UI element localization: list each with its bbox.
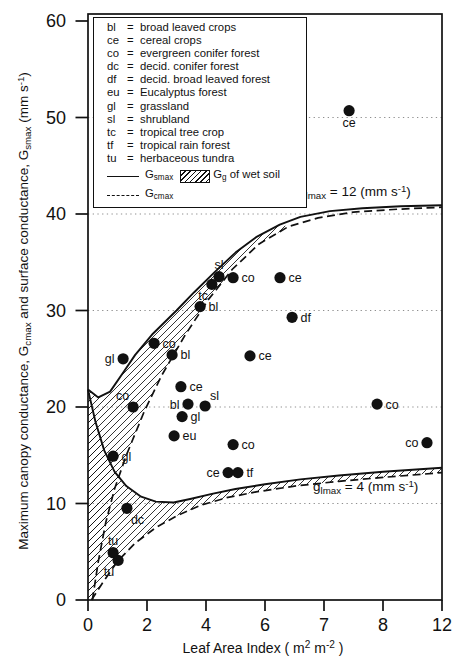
annotation-glmax12: glmax = 12 (mm s-1) <box>298 183 411 201</box>
point-label: ce <box>289 271 302 285</box>
legend-equals: = <box>127 73 140 86</box>
legend-abbr: gl <box>107 100 127 113</box>
point-label: ce <box>189 380 202 394</box>
legend-abbr: df <box>107 73 127 86</box>
point-label: gl <box>122 450 132 464</box>
y-tick-label: 20 <box>46 397 66 417</box>
data-point-ce <box>274 272 285 283</box>
data-point-co <box>228 439 239 450</box>
data-point-ce <box>223 467 234 478</box>
legend-equals: = <box>127 152 140 165</box>
point-label: co <box>242 438 255 452</box>
y-tick-label: 10 <box>46 494 66 514</box>
data-point-gl <box>118 353 129 364</box>
data-point-co <box>372 399 383 410</box>
legend-desc: shrubland <box>140 113 304 126</box>
legend-item: df=decid. broad leaved forest <box>107 73 304 86</box>
x-tick-label: 0 <box>83 615 93 635</box>
annotation-glmax4: glmax = 4 (mm s-1) <box>313 478 418 496</box>
point-label: dc <box>131 513 144 527</box>
wet-soil-hatch-regions <box>88 225 442 600</box>
x-tick-label: 2 <box>142 615 152 635</box>
legend-item: tc=tropical tree crop <box>107 126 304 139</box>
gsmax-label: Gsmax <box>145 168 173 184</box>
point-label: gl <box>191 410 201 424</box>
data-point-co <box>421 437 432 448</box>
data-point-bl <box>195 301 206 312</box>
legend-item: dc=decid. conifer forest <box>107 60 304 73</box>
legend-line-gsmax: Gsmax Gg of wet soil <box>107 168 304 184</box>
legend-item: co=evergreen conifer forest <box>107 47 304 60</box>
point-label: gl <box>105 352 115 366</box>
point-label: co <box>242 271 255 285</box>
legend-abbr: bl <box>107 21 127 34</box>
legend-equals: = <box>127 86 140 99</box>
legend-item: tf=tropical rain forest <box>107 139 304 152</box>
data-point-ce <box>344 105 355 116</box>
legend-item: bl=broad leaved crops <box>107 21 304 34</box>
gcmax-label: Gcmax <box>145 187 173 203</box>
y-tick-label: 60 <box>46 11 66 31</box>
data-point-ce <box>244 350 255 361</box>
y-tick-label: 30 <box>46 301 66 321</box>
point-label: tc <box>198 289 208 303</box>
data-point-ce <box>175 381 186 392</box>
legend-desc: decid. broad leaved forest <box>140 73 304 86</box>
point-label: bl <box>209 300 219 314</box>
legend-equals: = <box>127 34 140 47</box>
point-label: ce <box>259 349 272 363</box>
data-point-eu <box>169 430 180 441</box>
legend-abbr: tf <box>107 139 127 152</box>
legend-item: ce=cereal crops <box>107 34 304 47</box>
legend-desc: tropical rain forest <box>140 139 304 152</box>
legend-abbr: tu <box>107 152 127 165</box>
solid-line-sample <box>107 176 139 177</box>
legend-abbr: sl <box>107 113 127 126</box>
dashed-line-sample <box>107 195 139 196</box>
data-point-co <box>128 401 139 412</box>
legend-equals: = <box>127 139 140 152</box>
data-point-tf <box>232 467 243 478</box>
legend-item: sl=shrubland <box>107 113 304 126</box>
point-label: bl <box>181 348 191 362</box>
y-tick-label: 50 <box>46 108 66 128</box>
point-label: tf <box>246 466 253 480</box>
point-label: sl <box>214 258 223 272</box>
legend-equals: = <box>127 100 140 113</box>
x-tick-label: 12 <box>432 615 452 635</box>
point-label: tu <box>104 565 114 579</box>
legend-abbr: ce <box>107 34 127 47</box>
point-label: ce <box>342 116 355 130</box>
legend-equals: = <box>127 47 140 60</box>
legend-equals: = <box>127 126 140 139</box>
data-point-gl <box>108 451 119 462</box>
legend-items: bl=broad leaved cropsce=cereal cropsco=e… <box>107 21 304 165</box>
figure: 010203040506002467812cesltccocebldfcoglb… <box>0 0 455 664</box>
wet-soil-hatch-swatch <box>180 170 210 183</box>
data-point-tu <box>113 555 124 566</box>
legend-abbr: co <box>107 47 127 60</box>
point-label: ce <box>206 466 219 480</box>
point-label: co <box>386 398 399 412</box>
point-label: eu <box>183 429 197 443</box>
legend-desc: herbaceous tundra <box>140 152 304 165</box>
point-label: co <box>163 337 176 351</box>
data-point-co <box>228 272 239 283</box>
x-tick-label: 6 <box>260 615 270 635</box>
gg-label: Gg of wet soil <box>213 168 280 184</box>
x-axis-title: Leaf Area Index ( m2 m-2 ) <box>183 639 344 656</box>
legend-line-gcmax: Gcmax <box>107 187 304 203</box>
data-point-co <box>149 338 160 349</box>
y-axis-title: Maximum canopy conductance, Gcmax and su… <box>15 72 33 550</box>
point-label: tu <box>108 534 118 548</box>
legend-equals: = <box>127 113 140 126</box>
legend-item: tu=herbaceous tundra <box>107 152 304 165</box>
legend-desc: evergreen conifer forest <box>140 47 304 60</box>
legend-desc: broad leaved crops <box>140 21 304 34</box>
chart-legend: bl=broad leaved cropsce=cereal cropsco=e… <box>93 17 307 208</box>
point-label: df <box>301 311 312 325</box>
point-label: co <box>405 436 418 450</box>
legend-abbr: eu <box>107 86 127 99</box>
legend-desc: Eucalyptus forest <box>140 86 304 99</box>
x-tick-label: 4 <box>201 615 211 635</box>
